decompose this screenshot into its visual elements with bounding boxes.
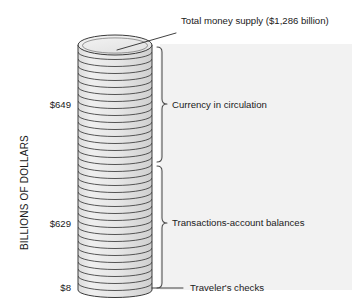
y-axis-title: BILLIONS OF DOLLARS (19, 135, 30, 250)
total-money-supply-label: Total money supply ($1,286 billion) (181, 15, 329, 26)
transactions-value-label: $629 (50, 218, 71, 229)
transactions-account-label: Transactions-account balances (172, 217, 305, 228)
money-supply-diagram: Total money supply ($1,286 billion) Curr… (0, 0, 352, 308)
money-supply-figure: Total money supply ($1,286 billion) Curr… (0, 0, 352, 308)
currency-value-label: $649 (50, 99, 71, 110)
travelers-value-label: $8 (60, 282, 71, 293)
coin-stack (78, 35, 152, 298)
travelers-checks-label: Traveler's checks (190, 282, 264, 293)
currency-in-circulation-label: Currency in circulation (172, 99, 267, 110)
background-panel (160, 44, 352, 290)
